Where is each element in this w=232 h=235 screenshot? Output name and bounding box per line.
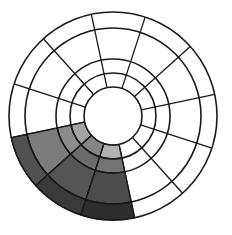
spoke-line bbox=[141, 94, 214, 110]
center-circle bbox=[84, 87, 142, 145]
wheel-svg bbox=[0, 0, 232, 235]
radial-wheel-diagram bbox=[0, 0, 232, 235]
spoke-line bbox=[91, 14, 107, 87]
shaded-cells bbox=[11, 122, 134, 220]
